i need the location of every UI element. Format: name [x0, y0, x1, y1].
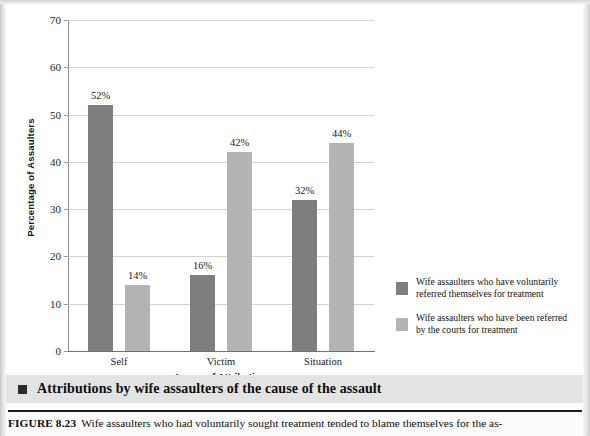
y-tick-mark	[64, 67, 68, 68]
y-tick-label: 60	[50, 61, 61, 73]
y-tick-label: 50	[50, 109, 61, 121]
legend-item-1: Wife assaulters who have been referredby…	[396, 312, 586, 337]
bar-value-label: 16%	[193, 260, 212, 271]
y-tick-label: 20	[50, 250, 61, 262]
y-tick-mark	[64, 351, 68, 352]
bar-court-referral-victim: 42%	[227, 152, 252, 351]
gridline	[68, 115, 374, 116]
figure-caption-text: Wife assaulters who had voluntarily soug…	[81, 417, 502, 429]
gridline	[68, 67, 374, 68]
y-tick-mark	[64, 209, 68, 210]
x-axis-line	[68, 351, 375, 352]
figure-page: Percentage of Assaulters 010203040506070…	[0, 0, 590, 436]
bar-voluntary-referral-victim: 16%	[190, 275, 215, 351]
section-title-text: Attributions by wife assaulters of the c…	[37, 381, 382, 397]
y-tick-mark	[64, 304, 68, 305]
legend-label-0: Wife assaulters who have voluntarilyrefe…	[416, 276, 558, 301]
y-axis-title: Percentage of Assaulters	[25, 88, 36, 268]
section-title-bar: Attributions by wife assaulters of the c…	[6, 375, 583, 403]
y-tick-label: 10	[50, 298, 61, 310]
y-tick-label: 40	[50, 156, 61, 168]
legend-item-0: Wife assaulters who have voluntarilyrefe…	[396, 276, 586, 301]
legend-swatch-1	[396, 318, 408, 331]
x-tick-label-victim: Victim	[207, 356, 236, 367]
y-tick-mark	[64, 162, 68, 163]
figure-number: FIGURE 8.23	[8, 417, 76, 429]
bar-court-referral-self: 14%	[125, 285, 150, 351]
gridline	[68, 20, 374, 21]
x-tick-label-self: Self	[111, 356, 128, 367]
bar-court-referral-situation: 44%	[329, 143, 354, 351]
y-tick-label: 70	[50, 14, 61, 26]
legend-label-1: Wife assaulters who have been referredby…	[416, 312, 567, 337]
figure-caption: FIGURE 8.23Wife assaulters who had volun…	[8, 416, 584, 430]
legend-swatch-0	[396, 282, 408, 295]
y-tick-mark	[64, 20, 68, 21]
square-bullet-icon	[18, 385, 27, 394]
bar-value-label: 44%	[332, 128, 351, 139]
y-tick-label: 30	[50, 203, 61, 215]
y-tick-mark	[64, 115, 68, 116]
bar-voluntary-referral-self: 52%	[88, 105, 113, 351]
bar-voluntary-referral-situation: 32%	[292, 200, 317, 351]
y-tick-label: 0	[56, 345, 62, 357]
bar-value-label: 42%	[230, 137, 249, 148]
caption-divider	[8, 410, 582, 412]
chart-legend: Wife assaulters who have voluntarilyrefe…	[396, 276, 586, 348]
y-tick-mark	[64, 256, 68, 257]
bar-value-label: 14%	[128, 270, 147, 281]
scan-edge-right	[583, 0, 590, 436]
bar-value-label: 52%	[91, 90, 110, 101]
bar-value-label: 32%	[295, 185, 314, 196]
plot-wrapper: Percentage of Assaulters 010203040506070…	[6, 4, 583, 372]
x-tick-label-situation: Situation	[304, 356, 342, 367]
plot-area: 01020304050607052%14%16%42%32%44%	[68, 20, 374, 351]
chart-panel: Percentage of Assaulters 010203040506070…	[6, 4, 583, 372]
